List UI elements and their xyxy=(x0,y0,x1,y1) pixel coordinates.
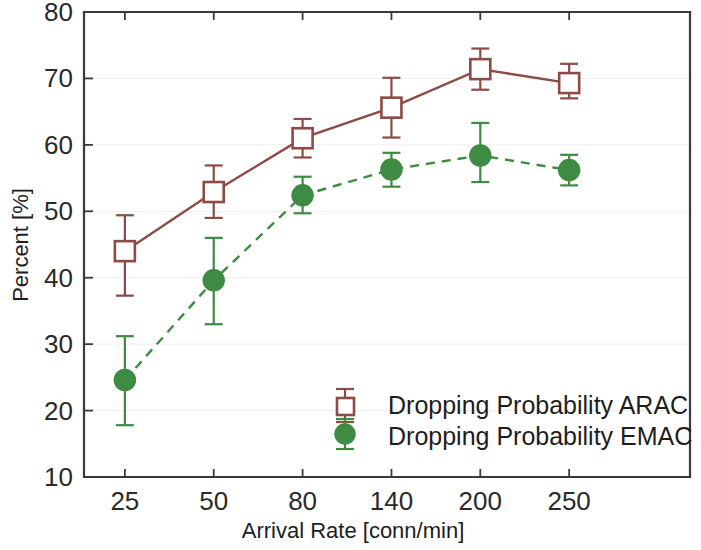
data-point-marker xyxy=(115,241,135,261)
y-tick-label: 40 xyxy=(44,263,73,293)
legend-label-arac: Dropping Probability ARAC xyxy=(388,391,688,419)
x-tick-label: 25 xyxy=(110,486,139,516)
data-point-marker xyxy=(559,73,579,93)
chart-figure: 1020304050607080 255080140200250 Arrival… xyxy=(0,0,701,550)
y-tick-label: 70 xyxy=(44,63,73,93)
x-tick-label: 250 xyxy=(547,486,590,516)
x-tick-labels: 255080140200250 xyxy=(110,486,590,516)
y-tick-label: 60 xyxy=(44,130,73,160)
x-tick-label: 80 xyxy=(288,486,317,516)
line-chart-with-error-bars: 1020304050607080 255080140200250 Arrival… xyxy=(0,0,701,550)
data-point-marker xyxy=(292,185,313,206)
x-tick-label: 50 xyxy=(199,486,228,516)
legend-label-emac: Dropping Probability EMAC xyxy=(388,422,692,450)
data-point-marker xyxy=(203,270,224,291)
y-tick-label: 50 xyxy=(44,196,73,226)
y-tick-label: 80 xyxy=(44,0,73,27)
data-point-marker xyxy=(470,59,490,79)
x-tick-label: 140 xyxy=(370,486,413,516)
x-axis-title: Arrival Rate [conn/min] xyxy=(242,518,465,543)
data-point-marker xyxy=(559,160,580,181)
data-point-marker xyxy=(470,145,491,166)
y-tick-labels: 1020304050607080 xyxy=(44,0,73,492)
y-tick-label: 30 xyxy=(44,329,73,359)
data-point-marker xyxy=(381,98,401,118)
data-point-marker xyxy=(381,159,402,180)
data-point-marker xyxy=(293,128,313,148)
y-tick-label: 20 xyxy=(44,396,73,426)
y-tick-label: 10 xyxy=(44,462,73,492)
y-axis-title: Percent [%] xyxy=(8,188,33,302)
data-point-marker xyxy=(204,182,224,202)
x-tick-label: 200 xyxy=(459,486,502,516)
data-point-marker xyxy=(114,370,135,391)
